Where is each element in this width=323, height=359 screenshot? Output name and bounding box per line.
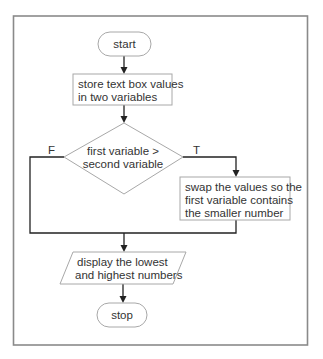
decision-line-2: second variable [83, 158, 164, 170]
true-label: T [193, 144, 200, 156]
stop-terminal: stop [97, 303, 147, 327]
swap-process: swap the values so the first variable co… [180, 177, 302, 220]
swap-line-3: the smaller number [185, 207, 284, 219]
display-line-1: display the lowest [77, 256, 169, 268]
display-io: display the lowest and highest numbers [60, 252, 186, 284]
start-label: start [113, 38, 136, 50]
store-line-2: in two variables [78, 91, 158, 103]
store-process: store text box values in two variables [73, 74, 184, 105]
stop-label: stop [111, 309, 133, 321]
swap-line-2: first variable contains [185, 194, 293, 206]
decision-line-1: first variable > [87, 145, 159, 157]
flowchart-canvas: start store text box values in two varia… [0, 0, 323, 359]
display-line-2: and highest numbers [75, 269, 183, 281]
false-label: F [48, 144, 55, 156]
swap-line-1: swap the values so the [185, 181, 302, 193]
store-line-1: store text box values [78, 78, 184, 90]
start-terminal: start [98, 32, 151, 56]
